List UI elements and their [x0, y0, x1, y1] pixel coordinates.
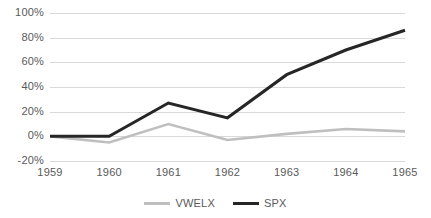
legend-line-swatch-icon	[233, 202, 259, 205]
y-axis: 100%80%60%40%20%0%-20%	[0, 0, 44, 175]
series-line-spx	[50, 30, 405, 136]
x-axis: 1959196019611962196319641965	[50, 166, 405, 184]
line-chart: 100%80%60%40%20%0%-20% 19591960196119621…	[0, 0, 431, 218]
y-tick-label: 100%	[0, 7, 44, 18]
y-tick-label: 0%	[0, 130, 44, 141]
legend-label: SPX	[264, 197, 287, 209]
legend-item-spx[interactable]: SPX	[233, 197, 287, 209]
y-tick-label: -20%	[0, 155, 44, 166]
series-line-vwelx	[50, 124, 405, 143]
legend-item-vwelx[interactable]: VWELX	[144, 197, 215, 209]
y-tick-label: 40%	[0, 81, 44, 92]
x-tick-label: 1962	[203, 166, 253, 178]
x-tick-label: 1964	[321, 166, 371, 178]
x-tick-label: 1965	[380, 166, 430, 178]
plot-area	[50, 13, 405, 161]
y-tick-label: 20%	[0, 106, 44, 117]
x-tick-label: 1959	[25, 166, 75, 178]
chart-legend: VWELXSPX	[0, 194, 431, 212]
legend-line-swatch-icon	[144, 202, 170, 205]
y-tick-label: 60%	[0, 56, 44, 67]
legend-label: VWELX	[175, 197, 215, 209]
series-lines	[50, 13, 405, 161]
x-tick-label: 1960	[84, 166, 134, 178]
gridline	[50, 161, 405, 162]
x-tick-label: 1961	[143, 166, 193, 178]
x-tick-label: 1963	[262, 166, 312, 178]
y-tick-label: 80%	[0, 32, 44, 43]
